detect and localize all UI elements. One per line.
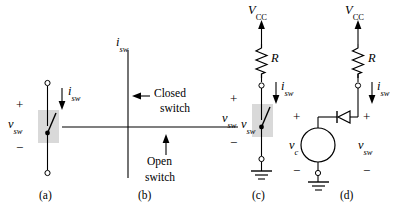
circuit-figure: isw vsw + − (a) isw vsw Closed switch Op…	[0, 0, 396, 213]
voltage-label-a: vsw	[8, 118, 23, 133]
figure-vector-graphics	[0, 0, 396, 213]
minus-sign-right-d: −	[363, 164, 370, 177]
terminal-node-bottom-a	[45, 170, 50, 175]
panel-a-graphics	[38, 80, 65, 175]
current-arrow-head-d	[369, 95, 376, 104]
resistor-zigzag-c	[256, 44, 267, 78]
y-axis-label-b: isw	[116, 36, 128, 51]
terminal-node-bottom-c	[259, 156, 264, 161]
current-label-d: isw	[377, 80, 389, 95]
control-voltage-label-d: vc	[289, 139, 298, 154]
resistor-label-c: R	[271, 52, 279, 65]
minus-sign-a: −	[16, 141, 23, 154]
terminal-node-d	[355, 83, 360, 88]
terminal-node-top-a	[45, 80, 50, 85]
voltage-source-circle-d	[301, 128, 335, 162]
current-arrow-head-c	[273, 95, 280, 104]
panel-label-d: (d)	[340, 190, 353, 202]
resistor-label-d: R	[368, 52, 376, 65]
plus-sign-right-d: +	[363, 110, 370, 123]
transistor-triangle-d	[338, 111, 350, 123]
closed-switch-annotation-line2: switch	[160, 103, 190, 115]
voltage-label-c: vsw	[222, 112, 237, 127]
x-axis-label-b: vsw	[241, 118, 256, 133]
panel-c-graphics	[251, 20, 279, 179]
supply-label-c: VCC	[248, 4, 267, 19]
voltage-label-d: vsw	[358, 139, 373, 154]
closed-switch-annotation-line1: Closed	[154, 88, 186, 100]
supply-label-d: VCC	[345, 4, 364, 19]
resistor-zigzag-d	[353, 44, 364, 78]
closed-switch-pointer-head	[132, 93, 141, 100]
minus-sign-c: −	[230, 136, 237, 149]
switch-pivot-a	[45, 131, 50, 136]
terminal-node-bottom-d	[315, 170, 320, 175]
plus-sign-left-d: +	[293, 110, 300, 123]
current-arrow-head-a	[59, 101, 66, 110]
plus-sign-a: +	[16, 98, 23, 111]
panel-label-a: (a)	[39, 190, 52, 202]
panel-label-c: (c)	[252, 190, 265, 202]
plus-sign-c: +	[230, 92, 237, 105]
open-switch-annotation-line1: Open	[147, 156, 172, 168]
terminal-node-top-c	[259, 83, 264, 88]
minus-sign-left-d: −	[293, 164, 300, 177]
open-switch-annotation-line2: switch	[145, 172, 175, 184]
current-label-c: isw	[281, 80, 293, 95]
panel-label-b: (b)	[138, 190, 151, 202]
open-switch-pointer-head	[163, 134, 170, 143]
current-label-a: isw	[68, 85, 80, 100]
